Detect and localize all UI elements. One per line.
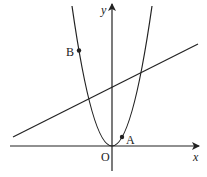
origin-label: O <box>101 150 110 164</box>
point-a-dot <box>120 135 124 139</box>
point-b-label: B <box>66 45 74 59</box>
coordinate-diagram: B A O x y <box>0 0 207 177</box>
point-a-label: A <box>126 133 135 147</box>
y-axis-label: y <box>100 3 107 17</box>
diagram-canvas: B A O x y <box>0 0 207 177</box>
straight-line <box>13 44 198 137</box>
x-axis-label: x <box>192 150 199 164</box>
point-b-dot <box>77 48 81 52</box>
